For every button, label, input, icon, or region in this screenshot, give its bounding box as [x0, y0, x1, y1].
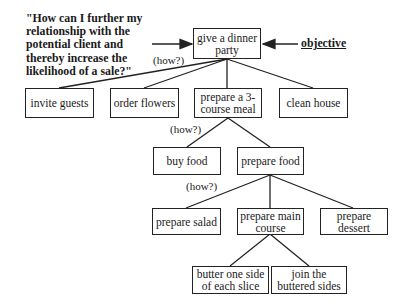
node-prepare-food: prepare food	[237, 147, 304, 175]
node-clean-house: clean house	[279, 88, 348, 118]
how-label-3: (how?)	[186, 180, 217, 192]
node-invite-guests: invite guests	[25, 88, 94, 118]
node-prepare-main-course: prepare main course	[237, 208, 304, 235]
node-root: give a dinner party	[193, 28, 261, 59]
node-prepare-salad: prepare salad	[152, 208, 221, 235]
node-buy-food: buy food	[153, 147, 221, 175]
how-label-2: (how?)	[170, 123, 201, 135]
objective-label: objective	[301, 36, 346, 51]
question-text: "How can I further my relationship with …	[26, 12, 156, 78]
node-prepare-dessert: prepare dessert	[320, 208, 388, 235]
how-label-1: (how?)	[153, 54, 184, 66]
node-prepare-meal: prepare a 3-course meal	[194, 88, 262, 118]
node-order-flowers: order flowers	[110, 88, 179, 118]
node-butter-slice: butter one side of each slice	[192, 266, 269, 294]
node-join-sides: join the buttered sides	[271, 266, 347, 294]
